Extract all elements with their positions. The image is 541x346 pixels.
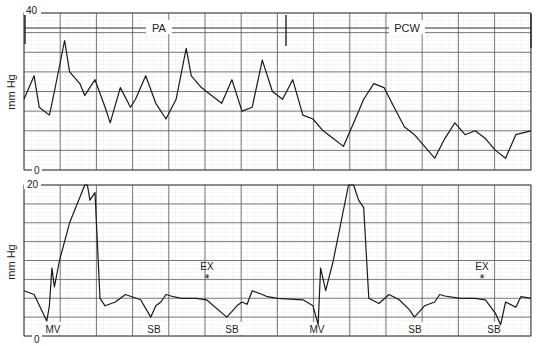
pressure-tracing-chart: PA PCW 40 0 mm Hg 20 0 mm Hg MV SB EX * … — [0, 0, 541, 346]
mv-label-1: MV — [46, 324, 61, 335]
ex-asterisk-icon-1: * — [204, 271, 209, 286]
top-panel: PA PCW 40 0 mm Hg — [5, 5, 531, 176]
top-y-max-label: 40 — [26, 5, 38, 16]
bottom-y-min-label: 0 — [34, 334, 40, 345]
top-y-min-label: 0 — [34, 165, 40, 176]
sb-label-1: SB — [147, 324, 161, 335]
pa-label: PA — [152, 22, 167, 34]
sb-label-3: SB — [408, 324, 422, 335]
pcw-label: PCW — [394, 22, 420, 34]
bottom-y-max-label: 20 — [27, 179, 39, 190]
top-y-axis-label: mm Hg — [5, 74, 17, 109]
ex-asterisk-icon-2: * — [479, 271, 484, 286]
bottom-panel: 20 0 mm Hg MV SB EX * SB MV SB EX * SB — [5, 178, 531, 346]
sb-label-4: SB — [487, 324, 501, 335]
sb-label-2: SB — [225, 324, 239, 335]
bottom-y-axis-label: mm Hg — [5, 244, 17, 279]
mv-label-2: MV — [310, 324, 325, 335]
